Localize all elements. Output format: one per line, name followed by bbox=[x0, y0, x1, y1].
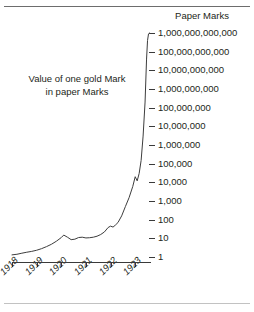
y-axis-tick-label: 100,000 bbox=[158, 159, 192, 169]
chart-annotation: Value of one gold Mark in paper Marks bbox=[6, 73, 148, 98]
y-axis-tick-label: 10,000,000 bbox=[158, 121, 206, 131]
y-axis-tick-label: 100,000,000,000 bbox=[158, 47, 229, 57]
y-axis-title: Paper Marks bbox=[150, 10, 254, 21]
annotation-line-1: Value of one gold Mark bbox=[6, 73, 148, 86]
y-axis-tick-label: 100 bbox=[158, 215, 174, 225]
x-axis-tick-label: 1918 bbox=[0, 255, 20, 277]
y-axis-tick-label: 10 bbox=[158, 233, 169, 243]
x-axis-tick-label: 1919 bbox=[23, 255, 45, 277]
x-axis-tick-label: 1922 bbox=[97, 255, 119, 277]
y-axis-tick bbox=[149, 52, 155, 53]
y-axis-tick bbox=[149, 33, 155, 34]
y-axis-tick bbox=[149, 145, 155, 146]
x-axis-tick-label: 1920 bbox=[47, 255, 69, 277]
y-axis-tick bbox=[149, 220, 155, 221]
y-axis-tick-label: 1 bbox=[158, 252, 163, 262]
y-axis-tick-label: 1,000 bbox=[158, 196, 182, 206]
y-axis-tick bbox=[149, 257, 155, 258]
x-axis-tick-label: 1921 bbox=[72, 255, 94, 277]
y-axis-tick bbox=[149, 238, 155, 239]
y-axis-tick bbox=[149, 126, 155, 127]
y-axis-tick bbox=[149, 89, 155, 90]
data-series-line bbox=[12, 33, 150, 255]
y-axis-tick-label: 1,000,000,000 bbox=[158, 84, 219, 94]
x-axis-tick-label: 1923 bbox=[121, 255, 143, 277]
annotation-line-2: in paper Marks bbox=[6, 86, 148, 99]
top-divider-rule bbox=[4, 6, 250, 7]
y-axis-tick-label: 10,000,000,000 bbox=[158, 65, 224, 75]
hyperinflation-chart-figure: Paper Marks Value of one gold Mark in pa… bbox=[0, 0, 254, 312]
y-axis-tick-label: 100,000,000 bbox=[158, 103, 211, 113]
bottom-divider-rule bbox=[4, 303, 250, 304]
y-axis-tick bbox=[149, 108, 155, 109]
y-axis-tick bbox=[149, 201, 155, 202]
y-axis-tick-label: 1,000,000 bbox=[158, 140, 200, 150]
y-axis-tick-label: 1,000,000,000,000 bbox=[158, 28, 237, 38]
y-axis-tick bbox=[149, 182, 155, 183]
x-axis-line bbox=[12, 262, 151, 263]
y-axis-tick-label: 10,000 bbox=[158, 177, 187, 187]
y-axis-tick bbox=[149, 70, 155, 71]
y-axis-tick bbox=[149, 164, 155, 165]
